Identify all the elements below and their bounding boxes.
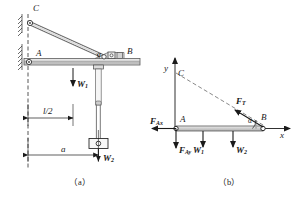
label-load-w1-a-base: W	[77, 79, 85, 89]
label-point-c-a: C	[33, 4, 39, 13]
wall-support	[18, 14, 28, 170]
panel-a	[18, 14, 140, 170]
panel-b	[152, 58, 290, 148]
label-force-fax-sub: Ax	[156, 120, 163, 126]
pin-joint-c	[27, 20, 32, 25]
label-force-ft: FT	[236, 97, 246, 107]
label-load-w2-a-base: W	[103, 153, 111, 163]
label-force-w2-b-base: W	[236, 145, 244, 155]
caption-panel-a: （a）	[69, 178, 91, 187]
label-dimension-half-span: l/2	[43, 107, 53, 116]
label-force-w1-b-base: W	[193, 145, 201, 155]
label-force-w1-b-sub: 1	[201, 149, 204, 155]
label-axis-x: x	[280, 131, 284, 140]
label-dimension-a: a	[61, 145, 66, 154]
label-axis-y: y	[164, 64, 168, 73]
label-force-w2-b-sub: 2	[244, 149, 247, 155]
label-angle-alpha-b: α	[248, 117, 252, 125]
freebody-beam-ab	[176, 126, 263, 131]
label-load-w1-a-sub: 1	[85, 83, 88, 89]
label-point-a-a: A	[36, 49, 42, 58]
beam-ab	[24, 59, 140, 66]
caption-panel-b: （b）	[218, 178, 240, 187]
label-point-a-b: A	[180, 115, 186, 124]
label-force-w2-b: W2	[236, 146, 247, 156]
label-load-w2-a-sub: 2	[111, 157, 114, 163]
label-load-w2-a: W2	[103, 154, 114, 164]
label-load-w1-a: W1	[77, 80, 88, 90]
label-point-b-a: B	[127, 47, 133, 56]
label-force-fay: FAy	[179, 146, 191, 156]
label-force-fax: FAx	[150, 117, 163, 127]
mechanics-figure: C A B α W1 W2 l/2 a （a） y x C A B α FAx …	[0, 0, 303, 198]
label-point-c-b: C	[178, 69, 184, 78]
figure-svg	[0, 0, 303, 198]
label-point-b-b: B	[261, 113, 267, 122]
label-force-fay-sub: Ay	[185, 149, 191, 155]
label-angle-alpha-a: α	[97, 51, 101, 59]
pin-joint-a	[26, 59, 31, 64]
label-force-ft-sub: T	[242, 100, 246, 106]
label-force-w1-b: W1	[193, 146, 204, 156]
